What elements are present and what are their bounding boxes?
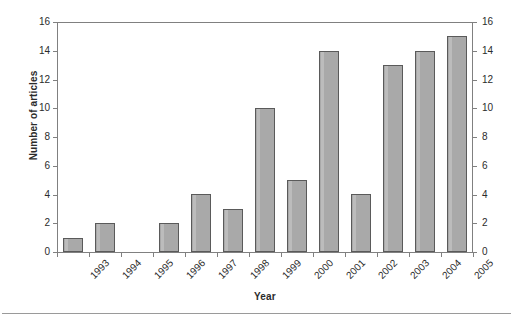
x-tick [473, 253, 474, 257]
y-tick-label-right: 16 [482, 17, 493, 27]
y-tick-label-left: 0 [44, 247, 50, 257]
bar [191, 194, 211, 252]
y-tick-right [473, 22, 477, 23]
bar-chart-figure: Number of articles 0246810121416 0246810… [0, 0, 513, 325]
x-tick-label: 1999 [281, 258, 304, 281]
x-tick-label: 1998 [249, 258, 272, 281]
x-tick [185, 253, 186, 257]
x-tick [313, 253, 314, 257]
x-tick-label: 2002 [377, 258, 400, 281]
bar-series [57, 22, 473, 252]
bar [287, 180, 307, 252]
x-tick [345, 253, 346, 257]
bar-highlight [385, 66, 388, 251]
bar-highlight [321, 52, 324, 251]
y-tick-label-left: 14 [39, 46, 50, 56]
x-tick [377, 253, 378, 257]
bar-highlight [65, 239, 68, 251]
y-tick-label-right: 0 [482, 247, 488, 257]
y-tick-label-left: 10 [39, 103, 50, 113]
y-tick-label-right: 14 [482, 46, 493, 56]
bar [255, 108, 275, 252]
x-tick [441, 253, 442, 257]
x-tick [249, 253, 250, 257]
y-tick-label-right: 4 [482, 190, 488, 200]
bar [447, 36, 467, 252]
x-tick [57, 253, 58, 257]
bar-highlight [161, 224, 164, 251]
bar-highlight [257, 109, 260, 251]
x-axis-line [57, 252, 473, 253]
y-tick-label-right: 10 [482, 103, 493, 113]
bar [63, 238, 83, 252]
bar-highlight [449, 37, 452, 251]
x-tick [409, 253, 410, 257]
x-tick [89, 253, 90, 257]
bar-highlight [225, 210, 228, 251]
x-tick-label: 1997 [217, 258, 240, 281]
y-tick-right [473, 108, 477, 109]
x-tick-label: 1993 [89, 258, 112, 281]
bar-highlight [353, 195, 356, 251]
y-tick-label-right: 12 [482, 75, 493, 85]
bar-highlight [193, 195, 196, 251]
bar-highlight [289, 181, 292, 251]
y-axis-title: Number of articles [28, 36, 39, 196]
y-tick-right [473, 195, 477, 196]
x-tick-label: 2000 [313, 258, 336, 281]
y-tick-label-left: 16 [39, 17, 50, 27]
y-tick-label-left: 6 [44, 161, 50, 171]
y-tick-label-left: 12 [39, 75, 50, 85]
bar [351, 194, 371, 252]
y-tick-right [473, 166, 477, 167]
x-tick-label: 1995 [153, 258, 176, 281]
x-tick-label: 1996 [185, 258, 208, 281]
x-tick [281, 253, 282, 257]
y-tick-label-right: 6 [482, 161, 488, 171]
bar [223, 209, 243, 252]
x-tick-label: 2003 [409, 258, 432, 281]
x-tick-label: 2004 [441, 258, 464, 281]
y-tick-label-right: 2 [482, 218, 488, 228]
y-tick-label-left: 2 [44, 218, 50, 228]
y-tick-right [473, 223, 477, 224]
bar-highlight [417, 52, 420, 251]
x-tick [217, 253, 218, 257]
x-tick [153, 253, 154, 257]
y-tick-label-right: 8 [482, 132, 488, 142]
bar [383, 65, 403, 252]
plot-area: 0246810121416 0246810121416 [57, 22, 473, 252]
y-tick-label-left: 8 [44, 132, 50, 142]
bar [95, 223, 115, 252]
x-axis-title: Year [57, 291, 473, 302]
x-tick-label: 1994 [121, 258, 144, 281]
x-tick-label: 2005 [473, 258, 496, 281]
footer-divider [2, 313, 511, 314]
x-tick [121, 253, 122, 257]
y-tick-label-left: 4 [44, 190, 50, 200]
bar [415, 51, 435, 252]
x-tick-label: 2001 [345, 258, 368, 281]
y-tick-right [473, 51, 477, 52]
bar [319, 51, 339, 252]
bar [159, 223, 179, 252]
bar-highlight [97, 224, 100, 251]
y-tick-right [473, 137, 477, 138]
y-tick-right [473, 80, 477, 81]
